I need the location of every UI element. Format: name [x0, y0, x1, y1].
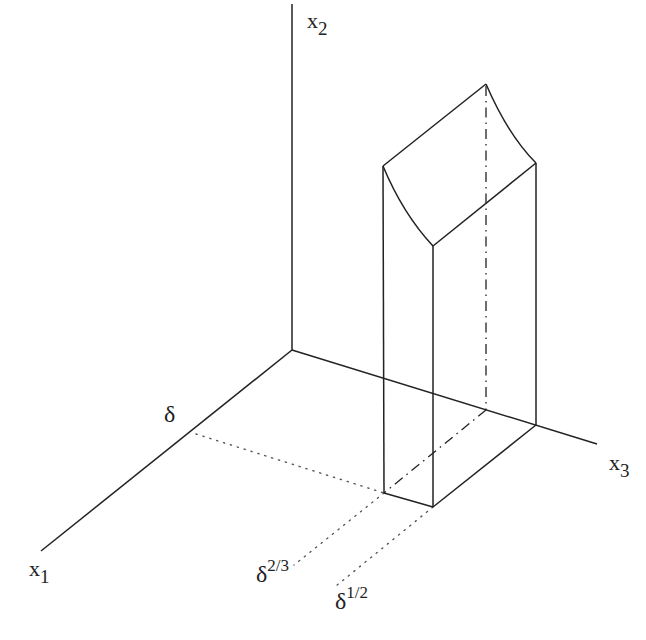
x3-axis-label: x3: [609, 450, 630, 481]
projection-lines: [196, 434, 433, 586]
x3-axis: [292, 350, 597, 444]
delta-1-2-label: δ1/2: [335, 583, 368, 614]
top-front-left-curve: [383, 166, 433, 246]
hidden-bottom-edge: [384, 410, 486, 493]
delta-1-2-projection-line: [336, 507, 433, 586]
x2-axis-label: x2: [307, 8, 328, 39]
delta-2-3-label: δ2/3: [256, 556, 289, 587]
hidden-edges: [384, 86, 486, 493]
delta-2-3-projection-line: [294, 493, 384, 565]
top-back-right-curve: [486, 84, 536, 163]
bottom-left-edge: [384, 493, 433, 507]
box: [383, 84, 536, 507]
top-back-left-edge: [383, 84, 486, 166]
delta-label: δ: [164, 401, 175, 427]
top-front-right-edge: [433, 163, 536, 246]
diagram-canvas: x2 x3 x1 δ δ2/3 δ1/2: [0, 0, 646, 640]
x1-axis-label: x1: [29, 556, 50, 587]
left-vertical-edge: [383, 166, 384, 493]
axes: [41, 4, 597, 551]
x1-axis: [41, 350, 292, 551]
bottom-right-edge: [433, 425, 536, 507]
delta-projection-line: [196, 434, 384, 493]
